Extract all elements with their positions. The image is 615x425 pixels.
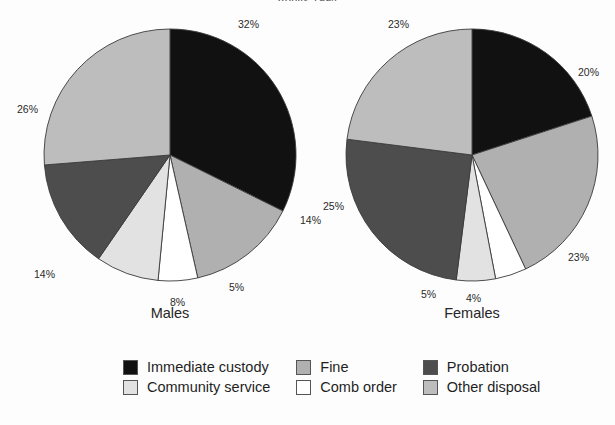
legend-swatch-icon xyxy=(123,360,138,375)
slice-label-males-community-service: 8% xyxy=(170,296,185,308)
slice-label-females-fine: 23% xyxy=(568,251,589,263)
slice-label-females-immediate-custody: 20% xyxy=(578,66,599,78)
slice-label-males-fine: 14% xyxy=(300,214,321,226)
legend-item-label: Community service xyxy=(147,380,270,395)
slice-label-females-community-service: 5% xyxy=(421,288,436,300)
slice-label-males-probation: 14% xyxy=(34,268,55,280)
legend-item-fine[interactable]: Fine xyxy=(296,360,397,375)
slice-label-females-other-disposal: 23% xyxy=(388,18,409,30)
pie-chart-females xyxy=(344,27,600,283)
legend-swatch-icon xyxy=(123,380,138,395)
pie-females-svg xyxy=(344,27,600,283)
legend-item-probation[interactable]: Probation xyxy=(423,360,541,375)
pie-slice-other-disposal[interactable] xyxy=(44,29,170,165)
slice-label-males-comb-order: 5% xyxy=(229,281,244,293)
legend-item-label: Probation xyxy=(447,360,509,375)
pie-chart-males xyxy=(42,27,298,283)
legend-item-label: Other disposal xyxy=(447,380,541,395)
chart-legend: Immediate custodyFineProbationCommunity … xyxy=(123,360,540,395)
slice-label-females-comb-order: 4% xyxy=(466,292,481,304)
legend-item-immediate-custody[interactable]: Immediate custody xyxy=(123,360,270,375)
slice-label-females-probation: 25% xyxy=(323,200,344,212)
legend-item-comb-order[interactable]: Comb order xyxy=(296,380,397,395)
slice-label-males-immediate-custody: 32% xyxy=(238,18,259,30)
pie-chart-figure: Adults 1994 Males Females 32% 14% 5% 8% … xyxy=(0,0,615,425)
pie-slice-probation[interactable] xyxy=(346,139,472,280)
legend-swatch-icon xyxy=(423,380,438,395)
legend-swatch-icon xyxy=(423,360,438,375)
legend-swatch-icon xyxy=(296,360,311,375)
slice-label-males-other-disposal: 26% xyxy=(17,103,38,115)
chart-title: Adults 1994 xyxy=(0,0,615,1)
legend-item-other-disposal[interactable]: Other disposal xyxy=(423,380,541,395)
pie-slice-other-disposal[interactable] xyxy=(347,29,472,155)
legend-item-label: Immediate custody xyxy=(147,360,269,375)
legend-swatch-icon xyxy=(296,380,311,395)
legend-item-community-service[interactable]: Community service xyxy=(123,380,270,395)
legend-item-label: Fine xyxy=(320,360,348,375)
pie-males-svg xyxy=(42,27,298,283)
pie-females-caption: Females xyxy=(422,305,522,321)
legend-item-label: Comb order xyxy=(320,380,397,395)
